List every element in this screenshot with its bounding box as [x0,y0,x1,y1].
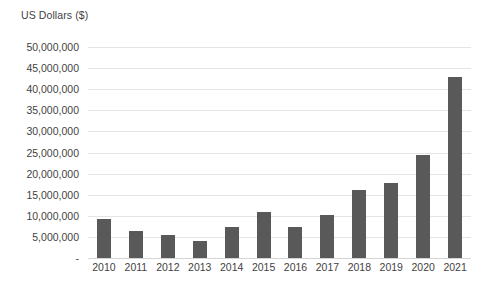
bar-slot [407,47,439,258]
x-axis-tick-label: 2012 [152,261,184,273]
bar-slot [375,47,407,258]
y-axis-tick-label: 15,000,000 [26,189,79,201]
bar [257,212,271,258]
x-axis-tick-label: 2011 [120,261,152,273]
y-axis-tick-label: - [76,252,80,264]
bar [129,231,143,258]
bar [225,227,239,258]
bar [288,227,302,258]
x-axis-tick-label: 2013 [184,261,216,273]
bar-slot [120,47,152,258]
bar-slot [152,47,184,258]
y-axis-title: US Dollars ($) [21,9,88,21]
gridline: - [88,258,471,259]
x-axis-tick-labels: 2010201120122013201420152016201720182019… [88,261,471,273]
y-axis-tick-label: 20,000,000 [26,168,79,180]
bar-slot [280,47,312,258]
x-axis-tick-label: 2014 [216,261,248,273]
bar [161,235,175,258]
y-axis-tick-label: 10,000,000 [26,210,79,222]
bar-series [88,47,471,258]
y-axis-tick-label: 50,000,000 [26,41,79,53]
y-axis-tick-label: 40,000,000 [26,83,79,95]
bar [352,190,366,258]
x-axis-tick-label: 2010 [88,261,120,273]
bar [384,183,398,258]
y-axis-tick-label: 5,000,000 [32,231,79,243]
bar-slot [216,47,248,258]
bar-slot [311,47,343,258]
y-axis-tick-label: 45,000,000 [26,62,79,74]
bar [193,241,207,258]
bar [97,219,111,258]
x-axis-tick-label: 2016 [280,261,312,273]
x-axis-tick-label: 2017 [311,261,343,273]
x-axis-tick-label: 2020 [407,261,439,273]
bar-chart: US Dollars ($) -5,000,00010,000,00015,00… [0,0,481,293]
x-axis-tick-label: 2018 [343,261,375,273]
bar-slot [248,47,280,258]
bar [416,155,430,258]
y-axis-tick-label: 30,000,000 [26,125,79,137]
bar-slot [184,47,216,258]
bar-slot [343,47,375,258]
plot-area: -5,000,00010,000,00015,000,00020,000,000… [88,47,471,258]
bar-slot [439,47,471,258]
y-axis-tick-label: 35,000,000 [26,104,79,116]
x-axis-tick-label: 2019 [375,261,407,273]
x-axis-tick-label: 2015 [248,261,280,273]
y-axis-tick-label: 25,000,000 [26,147,79,159]
bar [320,215,334,258]
x-axis-tick-label: 2021 [439,261,471,273]
bar [448,77,462,258]
bar-slot [88,47,120,258]
